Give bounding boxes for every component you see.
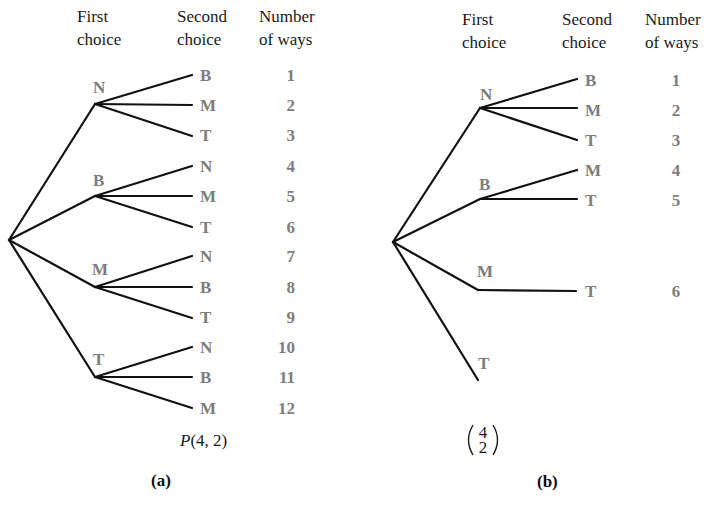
leaf-label: M — [585, 161, 601, 180]
formula-permutation: P(4, 2) — [179, 431, 227, 450]
header-second-choice-line2: choice — [562, 33, 606, 52]
leaf-label: B — [200, 368, 211, 387]
header-number-of-ways-line1: Number — [645, 10, 701, 29]
header-first-choice-line2: choice — [462, 33, 506, 52]
edge-B-M — [480, 170, 577, 199]
header-number-of-ways-line2: of ways — [259, 30, 312, 49]
node-first-B: B — [479, 175, 490, 194]
way-number: 4 — [287, 157, 296, 176]
way-number: 6 — [672, 282, 681, 301]
node-first-M: M — [477, 262, 493, 281]
way-number: 8 — [287, 278, 296, 297]
node-first-T: T — [93, 350, 105, 369]
edge-N-T — [95, 104, 192, 136]
edge-M-T — [95, 287, 192, 318]
edge-T-M — [95, 377, 192, 408]
tree-a: First choice Second choice Number of way… — [9, 7, 315, 490]
header-first-choice-line2: choice — [77, 30, 121, 49]
edge-root-M — [9, 240, 95, 287]
header-second-choice-line2: choice — [177, 30, 221, 49]
way-number: 10 — [278, 338, 295, 357]
leaf-label: M — [200, 399, 216, 418]
way-number: 4 — [672, 161, 681, 180]
way-number: 9 — [287, 308, 296, 327]
way-number: 1 — [672, 71, 681, 90]
caption-a: (a) — [151, 471, 171, 490]
leaf-label: T — [585, 282, 597, 301]
leaf-label: N — [200, 338, 213, 357]
way-number: 2 — [287, 96, 296, 115]
edge-B-N — [95, 166, 192, 196]
leaf-label: T — [200, 218, 212, 237]
header-first-choice-line1: First — [462, 10, 493, 29]
header-number-of-ways-line1: Number — [259, 7, 315, 26]
edge-root-T — [9, 240, 95, 377]
way-number: 7 — [287, 247, 296, 266]
tree-diagrams: First choice Second choice Number of way… — [0, 0, 713, 505]
edge-root-M — [393, 242, 478, 290]
header-second-choice-line1: Second — [177, 7, 228, 26]
node-first-T: T — [478, 354, 490, 373]
leaf-label: T — [200, 126, 212, 145]
edge-N-M — [95, 104, 192, 105]
caption-b: (b) — [537, 472, 558, 491]
edge-root-T — [393, 242, 478, 380]
header-first-choice-line1: First — [77, 7, 108, 26]
node-first-B: B — [93, 171, 104, 190]
binomial-bottom: 2 — [479, 438, 488, 457]
edge-T-N — [95, 347, 192, 377]
way-number: 2 — [672, 101, 681, 120]
leaf-label: M — [585, 101, 601, 120]
way-number: 5 — [672, 191, 681, 210]
header-second-choice-line1: Second — [562, 10, 613, 29]
edge-root-N — [9, 104, 95, 240]
edge-M-T — [478, 290, 576, 291]
leaf-label: M — [200, 96, 216, 115]
way-number: 6 — [287, 218, 296, 237]
way-number: 5 — [287, 187, 296, 206]
way-number: 12 — [278, 399, 295, 418]
leaf-label: T — [585, 131, 597, 150]
leaf-label: N — [200, 247, 213, 266]
leaf-label: N — [200, 157, 213, 176]
way-number: 1 — [287, 66, 296, 85]
tree-b: First choice Second choice Number of way… — [393, 10, 701, 491]
formula-binomial: 4 2 — [469, 423, 498, 457]
leaf-label: B — [200, 278, 211, 297]
edge-N-B — [480, 79, 577, 108]
edge-N-B — [95, 75, 192, 104]
way-number: 3 — [672, 131, 681, 150]
edge-B-T — [95, 196, 192, 227]
edge-M-N — [95, 256, 192, 287]
leaf-label: B — [585, 71, 596, 90]
way-number: 3 — [287, 126, 296, 145]
node-first-N: N — [93, 78, 106, 97]
header-number-of-ways-line2: of ways — [645, 33, 698, 52]
way-number: 11 — [279, 368, 295, 387]
edge-N-T — [480, 108, 577, 140]
leaf-label: B — [200, 66, 211, 85]
leaf-label: M — [200, 187, 216, 206]
leaf-label: T — [585, 191, 597, 210]
leaf-label: T — [200, 308, 212, 327]
node-first-N: N — [480, 85, 493, 104]
node-first-M: M — [92, 260, 108, 279]
edge-root-N — [393, 108, 480, 242]
